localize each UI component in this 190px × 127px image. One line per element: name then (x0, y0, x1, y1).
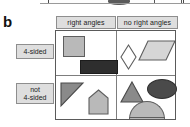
row-header-4-sided: 4-sided (16, 44, 54, 59)
triangle-shape (121, 82, 143, 102)
panel-letter-b: b (3, 14, 12, 29)
rectangle-shape (80, 60, 118, 74)
pentagon-shape (89, 90, 108, 114)
classification-matrix (55, 30, 176, 120)
square-shape (63, 36, 85, 57)
column-header-no-right-angles: no right angles (117, 16, 178, 29)
rhombus-shape (121, 45, 136, 69)
right-triangle-shape (61, 83, 83, 106)
panel-divider-rule (40, 3, 190, 4)
ellipse-shape (147, 79, 177, 99)
row-header-4-sided-line1: 4-sided (24, 48, 47, 56)
figure-panel-b: b right angles no right angles 4-sided n… (0, 0, 190, 127)
column-header-right-angles: right angles (56, 16, 116, 29)
row-header-not-4-sided-line2: 4-sided (24, 94, 47, 102)
parallelogram-shape (139, 41, 175, 60)
cell-not-4sided-no-right-angles (117, 76, 176, 119)
row-header-not-4-sided-line1: not (24, 86, 47, 94)
cell-4sided-no-right-angles (117, 31, 176, 75)
semicircle-baseline (129, 117, 165, 118)
cell-not-4sided-right-angles (56, 76, 116, 119)
cell-4sided-right-angles (56, 31, 116, 75)
row-header-not-4-sided: not 4-sided (16, 83, 54, 104)
